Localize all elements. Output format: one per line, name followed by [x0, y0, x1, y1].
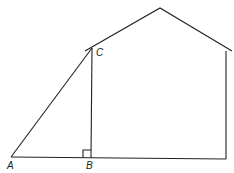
right-angle-marker: [83, 150, 91, 158]
diagram-canvas: A B C: [0, 0, 234, 173]
point-label-b: B: [86, 160, 93, 171]
roof-line: [85, 8, 232, 51]
point-label-a: A: [6, 160, 14, 171]
wall-line-bc: [91, 48, 92, 158]
ground-line: [11, 157, 226, 159]
point-label-c: C: [96, 47, 104, 58]
ladder-line-ac: [11, 48, 92, 157]
